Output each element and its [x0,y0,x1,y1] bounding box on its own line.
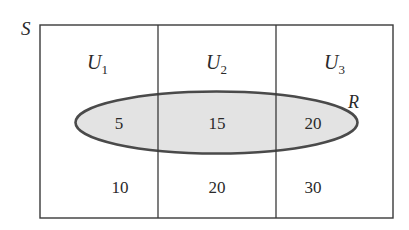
value-u2-outside-r: 20 [209,178,226,197]
event-r-label: R [347,92,359,112]
value-u3-in-r: 20 [305,114,322,133]
partition-subscript: 3 [338,62,345,77]
sample-space-label: S [21,18,31,39]
partition-subscript: 1 [101,62,108,77]
value-u2-in-r: 15 [209,114,226,133]
value-u3-outside-r: 30 [305,178,322,197]
partition-subscript: 2 [220,62,227,77]
value-u1-outside-r: 10 [112,178,129,197]
venn-partition-diagram: S R U1 U2 U3 5 15 20 10 20 30 [0,0,409,230]
value-u1-in-r: 5 [115,114,124,133]
